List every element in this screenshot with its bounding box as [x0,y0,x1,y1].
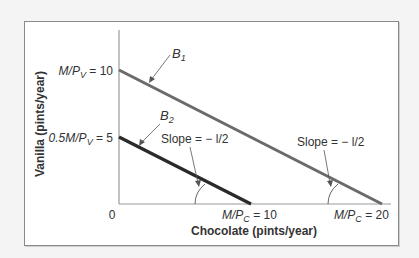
b1-x-intercept-label: M/PC = 20 [334,208,389,224]
budget-constraint-chart: B1 B2 Slope = − l/2 Slope = − l/2 M/PV =… [0,0,419,258]
slope-b2-angle-arc [195,184,205,204]
x-axis-title: Chocolate (pints/year) [191,224,317,238]
b1-y-intercept-label: M/PV = 10 [59,64,114,80]
slope-b1-pointer [324,150,330,183]
origin-label: 0 [109,208,116,222]
slope-label-b2: Slope = − l/2 [161,132,229,146]
b1-arrowhead-icon [149,76,155,83]
slope-b2-arrowhead-icon [195,180,201,187]
b2-pointer-arrow [141,124,160,143]
slope-b1-angle-arc [328,184,338,204]
b1-pointer-arrow [151,55,170,80]
b2-label: B2 [160,108,174,125]
budget-line-b2 [119,137,251,204]
y-axis-title: Vanilla (pints/year) [33,71,47,177]
slope-b2-pointer [190,147,198,183]
b1-label: B1 [172,46,186,63]
b2-y-intercept-label: 0.5M/PV = 5 [49,131,114,147]
b2-x-intercept-label: M/PC = 10 [222,208,277,224]
slope-label-b1: Slope = − l/2 [297,135,365,149]
slope-b1-arrowhead-icon [327,180,333,187]
